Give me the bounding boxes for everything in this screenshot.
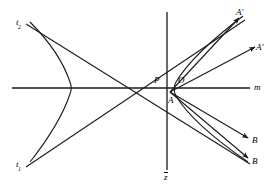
label-t2: t2 [16,18,22,29]
label-b-lower: B [252,157,258,166]
label-axis-m: m [254,83,261,92]
ray-b-lower [170,92,248,158]
label-point-a: A [168,96,174,105]
label-a-prime-upper: A′ [236,8,243,17]
figure-canvas [0,0,278,189]
label-axis-z: z [164,172,168,182]
asymptote-lower [26,24,250,164]
label-a-prime-lower: A′ [256,43,263,52]
hyperbola-figure: t2 t1 A′ A′ B B m z P O A [0,0,278,189]
ray-b-upper [170,92,248,138]
label-t1: t1 [16,160,22,171]
asymptote-upper [26,20,245,167]
label-point-p: P [154,76,160,85]
ray-a-prime-lower [170,47,255,92]
label-point-o: O [178,76,185,85]
label-b-upper: B [252,136,258,145]
